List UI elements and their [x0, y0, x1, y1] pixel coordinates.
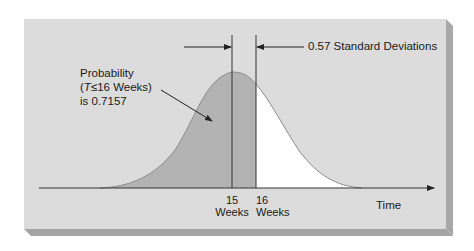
tick-label-16-weeks: 16 Weeks	[256, 194, 304, 218]
tick-unit: Weeks	[256, 206, 304, 218]
tick-label-15-weeks: 15 Weeks	[208, 194, 256, 218]
probability-annotation: Probability (T≤16 Weeks) is 0.7157	[80, 66, 152, 108]
variable-t: T	[84, 81, 91, 93]
annotation-line-1: Probability	[80, 66, 152, 80]
x-axis-label: Time	[376, 199, 401, 212]
annotation-condition: ≤16 Weeks)	[91, 81, 152, 93]
annotation-line-2: (T≤16 Weeks)	[80, 80, 152, 94]
tick-value: 16	[256, 194, 304, 206]
tick-unit: Weeks	[208, 206, 256, 218]
annotation-line-3: is 0.7157	[80, 94, 152, 108]
diagram-stage: Probability (T≤16 Weeks) is 0.7157 0.57 …	[0, 0, 474, 251]
panel-shadow-bottom	[24, 229, 453, 236]
panel-shadow-right	[446, 19, 453, 236]
std-deviation-label: 0.57 Standard Deviations	[308, 40, 437, 53]
tick-value: 15	[208, 194, 256, 206]
